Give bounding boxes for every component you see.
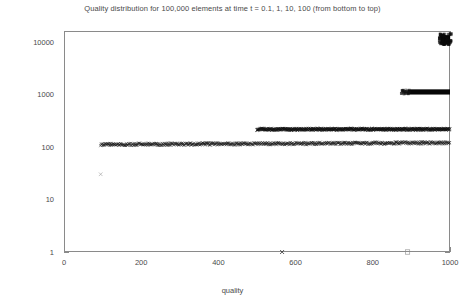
data-point-x [99,172,103,176]
data-point-square [405,250,409,254]
data-point-square [408,91,410,93]
data-point-square [447,39,449,41]
chart-container: Quality distribution for 100,000 element… [0,0,465,305]
data-band-t10 [408,89,450,94]
data-point-square [447,42,449,44]
data-point-square [450,33,452,35]
data-point-square [439,33,441,35]
data-point-square [408,89,410,91]
data-point-square [443,35,445,37]
data-point-square [441,40,443,42]
data-point-square [439,38,441,40]
data-points-layer [0,0,465,305]
data-point-square [439,41,441,43]
data-point-square [447,33,449,35]
data-point-square [444,42,446,44]
data-point-x [280,250,284,254]
